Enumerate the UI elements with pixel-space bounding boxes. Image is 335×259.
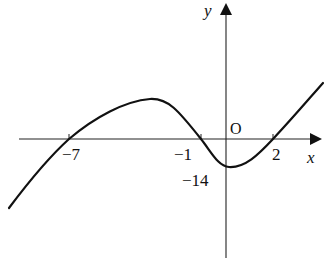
graph-canvas — [0, 0, 335, 259]
y-axis-arrow-icon — [220, 3, 232, 15]
tick-label-neg1: −1 — [174, 146, 192, 163]
tick-label-neg14: −14 — [182, 172, 209, 189]
y-axis-label: y — [204, 2, 212, 19]
x-axis-label: x — [307, 149, 315, 166]
origin-label: O — [230, 121, 242, 137]
cubic-function-graph: y x O −7 −1 2 −14 — [0, 0, 335, 259]
tick-label-neg7: −7 — [62, 146, 80, 163]
tick-label-2: 2 — [272, 146, 281, 163]
x-axis-arrow-icon — [310, 133, 322, 145]
